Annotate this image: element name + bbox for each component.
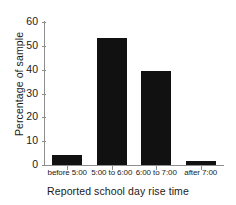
y-tick: 30: [0, 94, 45, 95]
bar: [97, 38, 127, 166]
x-axis-title: Reported school day rise time: [0, 185, 236, 197]
y-tick-label: 50: [2, 39, 38, 52]
y-tick-mark: [42, 165, 46, 166]
y-tick: 50: [0, 46, 45, 47]
y-tick: 60: [0, 22, 45, 23]
y-tick-label: 30: [2, 87, 38, 100]
plot-area: [45, 22, 223, 165]
bar: [141, 71, 171, 165]
y-tick: 40: [0, 70, 45, 71]
bar-chart-figure: Percentage of sample 0102030405060 befor…: [0, 0, 236, 205]
y-tick: 10: [0, 141, 45, 142]
y-tick-label: 10: [2, 134, 38, 147]
y-tick-label: 40: [2, 63, 38, 76]
bar: [186, 161, 216, 165]
x-axis-line: [44, 165, 224, 166]
bar: [52, 155, 82, 165]
x-tick-label: after 7:00: [175, 168, 227, 177]
y-tick-label: 60: [2, 15, 38, 28]
y-tick: 0: [0, 165, 45, 166]
y-tick-label: 20: [2, 110, 38, 123]
y-tick-label: 0: [2, 158, 38, 171]
y-tick: 20: [0, 117, 45, 118]
